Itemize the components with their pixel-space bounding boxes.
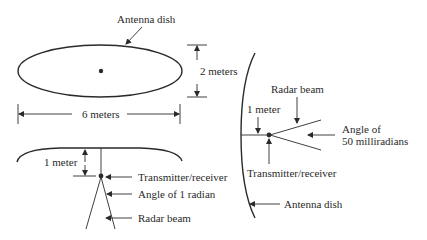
side-view-left: 1 meter Transmitter/receiver Angle of 1 … [17, 148, 228, 229]
beam-label-right: Radar beam [271, 83, 324, 95]
beam-edge-right-1 [270, 120, 321, 135]
dish-arc-left [17, 148, 182, 162]
distance-label-right: 1 meter [247, 103, 281, 115]
dish-center-dot [99, 69, 103, 73]
transmitter-label-right: Transmitter/receiver [247, 167, 337, 179]
beam-edge-right-2 [270, 135, 321, 150]
angle-label-left: Angle of 1 radian [138, 188, 216, 200]
angle-label-right-2: 50 milliradians [342, 135, 408, 147]
width-label: 6 meters [82, 108, 120, 120]
angle-label-right-1: Angle of [342, 123, 381, 135]
dish-label-right: Antenna dish [284, 198, 343, 210]
side-view-right: Radar beam 1 meter Angle of 50 milliradi… [241, 53, 408, 218]
dish-label-top: Antenna dish [117, 13, 176, 25]
dish-pointer-arrow-top [126, 27, 142, 44]
height-label: 2 meters [200, 65, 238, 77]
dish-arc-right [241, 53, 255, 218]
distance-label-left: 1 meter [44, 156, 78, 168]
beam-edge-left-2 [101, 177, 115, 229]
beam-label-left: Radar beam [138, 212, 191, 224]
height-dimension: 2 meters [187, 45, 238, 97]
top-view: Antenna dish 2 meters 6 meters [18, 13, 238, 124]
width-dimension: 6 meters [18, 104, 180, 124]
beam-edge-left-1 [86, 177, 101, 229]
transmitter-label-left: Transmitter/receiver [138, 171, 228, 183]
radar-antenna-diagram: Antenna dish 2 meters 6 meters 1 meter [0, 0, 427, 240]
